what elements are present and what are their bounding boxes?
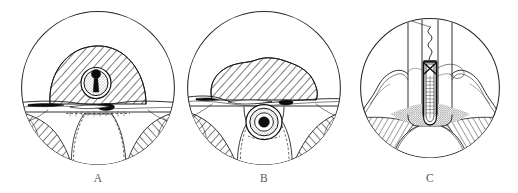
panel-a-membrane-lens-left: [28, 104, 64, 107]
figure-container: A: [0, 0, 518, 193]
panel-b-caption: B: [260, 172, 268, 184]
panel-b-membrane-lens: [279, 100, 293, 105]
figure-illustration: A: [0, 0, 518, 193]
panel-a-caption: A: [94, 172, 103, 184]
panel-b-duct-core: [259, 117, 270, 127]
panel-c-caption: C: [426, 172, 434, 184]
